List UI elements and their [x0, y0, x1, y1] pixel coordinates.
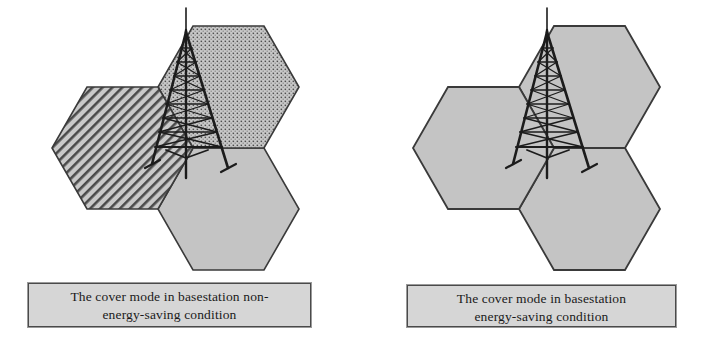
- caption-line-1: The cover mode in basestation: [408, 290, 675, 308]
- caption-line-2: energy-saving condition: [29, 306, 310, 324]
- figure-root: The cover mode in basestation non- energ…: [0, 0, 722, 345]
- panel-energy-saving: The cover mode in basestation energy-sav…: [361, 0, 722, 345]
- cell-coverage-diagram-right: [361, 0, 722, 280]
- caption-non-energy-saving: The cover mode in basestation non- energ…: [28, 283, 311, 327]
- caption-line-2: energy-saving condition: [408, 308, 675, 326]
- caption-energy-saving: The cover mode in basestation energy-sav…: [407, 285, 676, 327]
- cell-coverage-diagram-left: [0, 0, 361, 280]
- caption-line-1: The cover mode in basestation non-: [29, 288, 310, 306]
- panel-non-energy-saving: The cover mode in basestation non- energ…: [0, 0, 361, 345]
